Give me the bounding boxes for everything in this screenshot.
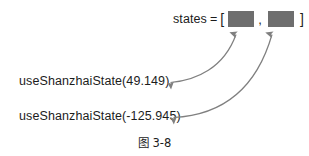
figure-3-8: states = [ , ] useShanzhaiState(49.149) …: [0, 0, 309, 156]
hook-call-label-2: useShanzhaiState(-125.945): [19, 109, 181, 123]
states-variable-name: states: [173, 12, 207, 26]
array-separator: ,: [258, 12, 262, 29]
figure-caption: 图 3-8: [0, 134, 309, 150]
close-bracket: ]: [300, 11, 304, 27]
equals-sign: =: [210, 12, 217, 26]
hook-call-label-1: useShanzhaiState(49.149): [19, 74, 169, 88]
arrow-slot-2: [174, 35, 273, 118]
open-bracket: [: [220, 11, 224, 27]
arrow-slot-1: [171, 35, 237, 83]
state-slot-1: [228, 11, 254, 27]
states-expression: states = [ , ]: [173, 9, 304, 29]
state-slot-2: [268, 11, 294, 27]
